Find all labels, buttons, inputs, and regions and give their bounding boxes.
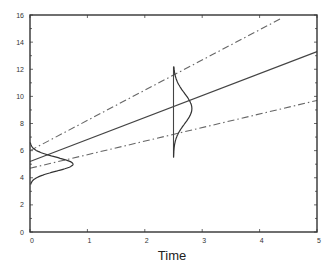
y-tick-label: 4 <box>20 174 24 181</box>
chart-series <box>30 18 317 169</box>
gaussian-curve <box>174 67 192 158</box>
y-tick-label: 2 <box>20 201 24 208</box>
x-tick-label: 3 <box>202 237 206 244</box>
y-tick-label: 6 <box>20 147 24 154</box>
x-tick-label: 0 <box>30 237 34 244</box>
y-tick-label: 0 <box>20 229 24 236</box>
x-axis-title: Time <box>158 248 186 263</box>
chart: 0246810121416012345 Time <box>0 0 335 274</box>
x-tick-label: 1 <box>87 237 91 244</box>
gaussian-curve <box>30 143 73 185</box>
x-tick-label: 2 <box>145 237 149 244</box>
x-tick-label: 4 <box>260 237 264 244</box>
axis-tick-labels: 0246810121416012345 <box>16 12 321 245</box>
y-tick-label: 12 <box>16 66 24 73</box>
y-tick-label: 14 <box>16 39 24 46</box>
distribution-curves <box>30 67 192 185</box>
x-tick-label: 5 <box>317 237 321 244</box>
series-line <box>30 18 283 151</box>
y-tick-label: 10 <box>16 93 24 100</box>
y-tick-label: 8 <box>20 120 24 127</box>
y-tick-label: 16 <box>16 12 24 19</box>
